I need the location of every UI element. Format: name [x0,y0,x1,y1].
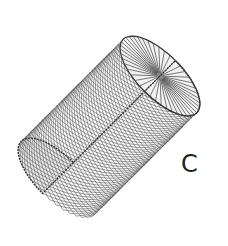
mesh-cylinder [18,36,200,218]
braided-tube-diagram [0,0,228,246]
panel-label: C [181,152,198,176]
